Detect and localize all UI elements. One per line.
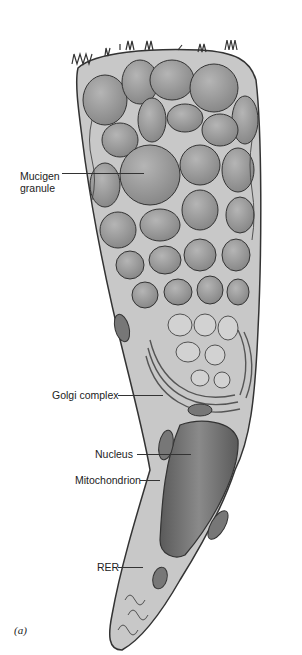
mucigen-leader: [62, 173, 144, 174]
mucigen-label-line2: granule: [20, 182, 60, 194]
rer-leader: [118, 567, 143, 568]
panel-label: (a): [14, 624, 27, 636]
mucigen-granule-label: Mucigen granule: [20, 170, 60, 194]
nucleus-leader: [137, 454, 191, 455]
mitochondrion-label: Mitochondrion: [75, 474, 141, 486]
mitochondrion-leader: [140, 480, 160, 481]
golgi-complex-label: Golgi complex: [52, 389, 119, 401]
nucleus-label: Nucleus: [95, 448, 133, 460]
golgi-leader: [118, 395, 163, 396]
mucigen-label-line1: Mucigen: [20, 170, 60, 182]
rer-label: RER: [97, 561, 119, 573]
goblet-cell-diagram: [0, 0, 302, 655]
